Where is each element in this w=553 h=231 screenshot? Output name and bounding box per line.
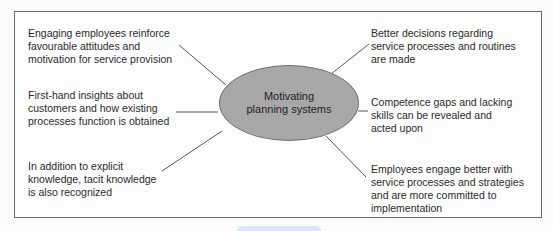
node-better-decisions: Better decisions regarding service proce…	[371, 27, 546, 66]
node-engaging-employees: Engaging employees reinforce favourable …	[28, 27, 228, 66]
connector-bottom-right	[326, 136, 366, 177]
center-label-line2: planning systems	[247, 103, 332, 116]
node-tacit-knowledge: In addition to explicit knowledge, tacit…	[28, 160, 218, 199]
center-ellipse-motivating-planning-systems: Motivating planning systems	[219, 65, 359, 141]
bottom-caption-tab	[237, 226, 321, 231]
node-employees-engage-better: Employees engage better with service pro…	[371, 163, 546, 215]
connector-top-right	[331, 44, 369, 74]
center-label-line1: Motivating	[247, 90, 332, 103]
node-competence-gaps: Competence gaps and lacking skills can b…	[371, 96, 546, 135]
node-first-hand-insights: First-hand insights about customers and …	[28, 89, 218, 128]
